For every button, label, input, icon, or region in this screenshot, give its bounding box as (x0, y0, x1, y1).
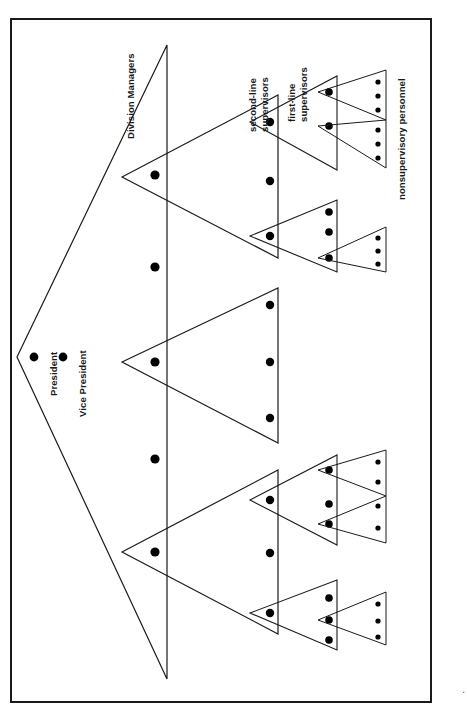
node-first-line-supervisor (325, 500, 333, 508)
node-second-line-supervisor (266, 496, 274, 504)
node-nonsupervisory (375, 459, 380, 464)
figure-page: President Vice President Division Manage… (0, 0, 467, 717)
label-president: President (48, 352, 59, 396)
caption-marker: . (462, 684, 465, 695)
node-president (30, 353, 39, 362)
node-division-manager (150, 357, 159, 366)
second-line-triangle-3b (250, 580, 337, 650)
node-nonsupervisory (375, 93, 380, 98)
second-line-triangle-1b (250, 200, 337, 272)
node-nonsupervisory (375, 127, 380, 132)
node-division-manager (150, 262, 159, 271)
node-nonsupervisory (375, 503, 380, 508)
node-nonsupervisory (375, 525, 380, 530)
node-nonsupervisory (375, 634, 380, 639)
node-division-manager (150, 547, 159, 556)
node-second-line-supervisor (266, 414, 274, 422)
node-second-line-supervisor (266, 358, 274, 366)
label-second-line-supervisors: second-line supervisors (247, 77, 270, 132)
node-second-line-supervisor (266, 549, 274, 557)
node-second-line-supervisor (266, 301, 274, 309)
node-nonsupervisory (375, 79, 380, 84)
node-nonsupervisory (375, 601, 380, 606)
label-first-line-supervisors: first-line supervisors (286, 67, 309, 122)
label-division-managers: Division Managers (125, 53, 136, 139)
node-nonsupervisory (375, 618, 380, 623)
node-first-line-supervisor (325, 208, 333, 216)
node-second-line-supervisor (266, 232, 274, 240)
node-second-line-supervisor (266, 177, 274, 185)
node-first-line-supervisor (325, 594, 333, 602)
node-nonsupervisory (375, 155, 380, 160)
division-triangle-2 (122, 288, 278, 443)
node-first-line-supervisor (325, 228, 333, 236)
node-second-line-supervisor (266, 609, 274, 617)
outer-organization-triangle (17, 45, 167, 679)
node-nonsupervisory (375, 479, 380, 484)
division-manager-nodes (150, 170, 159, 556)
node-first-line-supervisor (325, 122, 333, 130)
node-nonsupervisory (375, 107, 380, 112)
division-triangle-3 (122, 470, 278, 634)
node-nonsupervisory (375, 235, 380, 240)
node-nonsupervisory (375, 141, 380, 146)
node-vice-president (59, 353, 68, 362)
node-nonsupervisory (375, 261, 380, 266)
label-nonsupervisory-personnel: nonsupervisory personnel (396, 78, 407, 200)
node-division-manager (150, 454, 159, 463)
label-vice-president: Vice President (77, 350, 88, 417)
node-division-manager (150, 170, 159, 179)
node-first-line-supervisor (325, 636, 333, 644)
node-nonsupervisory (375, 248, 380, 253)
